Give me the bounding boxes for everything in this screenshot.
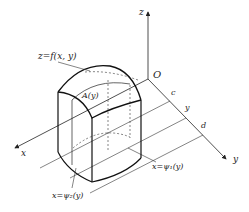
- cross-section-top: [58, 92, 141, 118]
- psi1-label: x=ψ₁(y): [152, 163, 183, 171]
- x-axis-label: x: [21, 149, 26, 158]
- y-tick-c: c: [171, 89, 175, 97]
- y-tick-d: d: [201, 122, 206, 130]
- surface-inner-curve: [72, 83, 130, 100]
- cross-section-label: A(y): [82, 92, 99, 100]
- diagram-canvas: [0, 0, 249, 212]
- volume-diagram: z O y x c y d z=f(x, y) A(y) x=ψ₂(y) x=ψ…: [0, 0, 249, 212]
- psi2-label: x=ψ₂(y): [52, 192, 83, 200]
- y-axis: [148, 79, 226, 159]
- z-axis-label: z: [139, 8, 144, 17]
- y-axis-label: y: [233, 155, 238, 164]
- x-axis: [15, 79, 148, 148]
- origin-label: O: [153, 70, 161, 80]
- y-tick-y: y: [185, 104, 190, 112]
- psi1-leader: [128, 148, 156, 162]
- surface-label: z=f(x, y): [38, 52, 77, 61]
- surface-leader: [58, 62, 90, 71]
- guide-line-d: [90, 135, 203, 193]
